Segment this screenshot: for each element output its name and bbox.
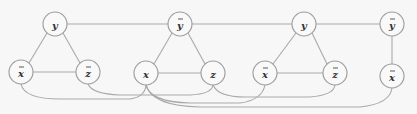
- node-label: y: [51, 20, 59, 31]
- node-y-bar: y: [168, 12, 192, 36]
- node-x-bar: x: [9, 60, 33, 84]
- edge-y2-xbar: [273, 33, 296, 64]
- node-label: x: [17, 68, 25, 79]
- node-z: z: [201, 61, 225, 85]
- node-label: y: [176, 20, 184, 31]
- node-x-bar: x: [253, 61, 277, 85]
- edge-ybar-x: [154, 33, 172, 64]
- edge-y1-zbar: [63, 33, 80, 63]
- edge-ybar-z: [188, 33, 205, 64]
- curve-x-xbar: [146, 85, 265, 103]
- node-y: y: [43, 12, 67, 36]
- node-label: x: [388, 72, 396, 83]
- curve-xbar-x: [21, 84, 146, 99]
- node-z-bar: z: [76, 60, 100, 84]
- node-label: x: [142, 69, 150, 80]
- edge-y2-zbar: [312, 33, 327, 64]
- curve-x-xbar2: [146, 85, 392, 107]
- node-z-bar: z: [323, 61, 347, 85]
- node-label: z: [84, 68, 91, 79]
- curve-z-zbar: [213, 85, 335, 97]
- node-y: y: [292, 12, 316, 36]
- node-y-bar: y: [380, 12, 404, 36]
- edge-y1-xbar: [29, 33, 47, 63]
- node-label: z: [331, 69, 338, 80]
- node-label: y: [300, 20, 308, 31]
- graph-diagram: yyyyxzxzxzx: [0, 0, 417, 114]
- nodes: yyyyxzxzxzx: [9, 12, 404, 88]
- node-x: x: [134, 61, 158, 85]
- node-x-bar: x: [380, 64, 404, 88]
- node-label: x: [261, 69, 269, 80]
- node-label: z: [209, 69, 216, 80]
- node-label: y: [388, 20, 396, 31]
